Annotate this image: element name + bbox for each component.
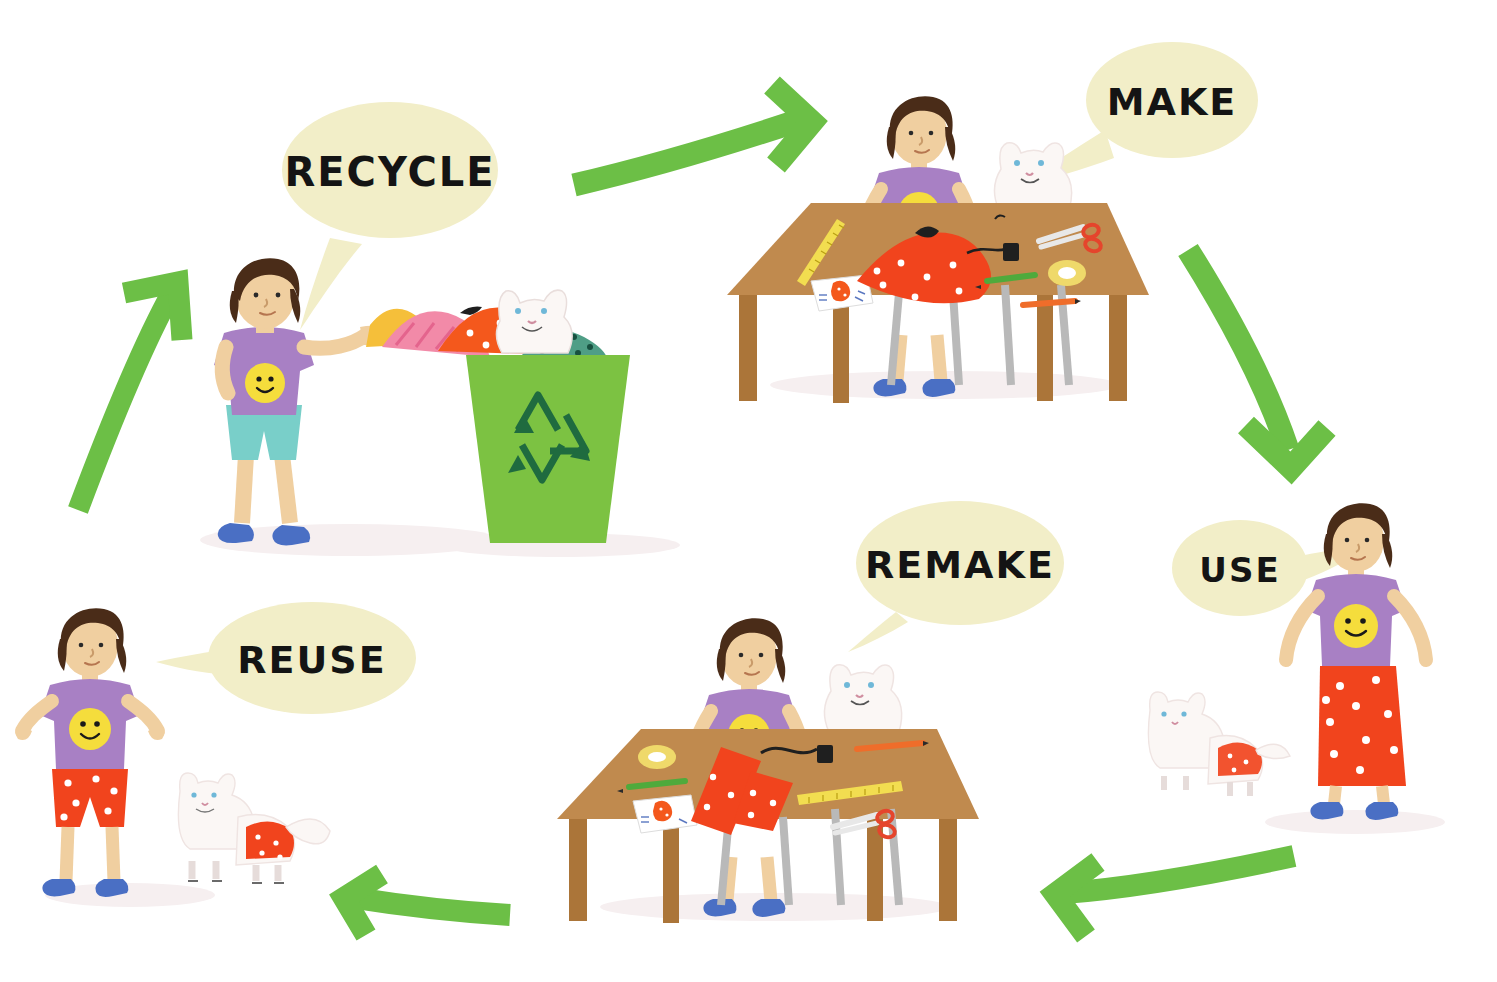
bubble-label-remake: REMAKE	[865, 543, 1055, 587]
figure-girl-recycle	[214, 258, 392, 545]
figure-girl-reuse	[15, 608, 164, 897]
scene-reuse	[20, 595, 360, 925]
pencil-orange	[1023, 301, 1075, 305]
recycling-bin	[466, 355, 630, 543]
cat-remake	[824, 665, 901, 732]
scene-use	[1130, 500, 1490, 840]
cat-reuse	[178, 773, 330, 883]
scene-remake	[545, 595, 995, 925]
scene-make	[715, 85, 1165, 405]
cat-use	[1148, 692, 1290, 796]
cat-make	[994, 143, 1071, 210]
thread-spool	[1003, 243, 1019, 261]
thread-spool	[817, 745, 833, 763]
scene-recycle	[170, 255, 640, 565]
bubble-label-recycle: RECYCLE	[284, 149, 495, 195]
diagram-canvas: RECYCLE MAKE USE REMAKE REUSE	[0, 0, 1497, 982]
cat-in-bin	[496, 290, 572, 353]
figure-girl-use	[1286, 503, 1426, 820]
pattern-paper	[633, 795, 697, 833]
